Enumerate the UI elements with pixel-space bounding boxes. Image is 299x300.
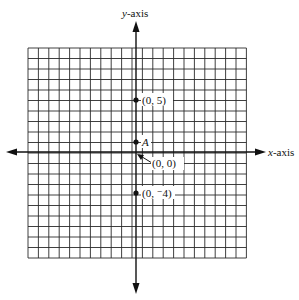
y-axis-label: y-axis bbox=[121, 7, 148, 19]
coordinate-plane: y-axis x-axis (0, 5) A (0, ⁻4) (0, 0) bbox=[0, 0, 299, 300]
point-A-label: A bbox=[141, 136, 149, 148]
x-axis-left-arrow-icon bbox=[6, 149, 17, 156]
origin-label: (0, 0) bbox=[152, 157, 176, 170]
x-axis-right-arrow-icon bbox=[255, 149, 266, 156]
grid bbox=[28, 48, 246, 258]
point-0-5-label: (0, 5) bbox=[142, 94, 166, 107]
x-axis-label: x-axis bbox=[267, 146, 294, 158]
y-axis-up-arrow-icon bbox=[133, 21, 140, 32]
y-axis-down-arrow-icon bbox=[133, 283, 140, 294]
point-A bbox=[133, 139, 138, 144]
point-0-neg4-label: (0, ⁻4) bbox=[142, 187, 172, 200]
point-0-neg4 bbox=[133, 190, 138, 195]
point-0-5 bbox=[133, 97, 138, 102]
